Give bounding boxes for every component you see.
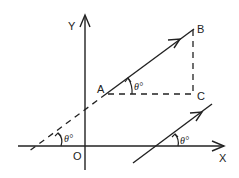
x-axis [18,141,224,151]
angle-label-parallel: θ° [180,135,189,146]
point-c-label: C [197,90,205,102]
angle-arc-extension-head [55,133,61,136]
point-a-label: A [97,83,105,95]
origin-label: O [73,150,82,162]
vector-diagram: Y X O A B C θ° θ° θ° [0,0,239,178]
angle-label-extension: θ° [64,133,73,144]
x-axis-label: X [219,152,227,164]
angle-arc-parallel-head [172,134,178,137]
point-b-label: B [197,23,204,35]
y-axis-label: Y [68,20,76,32]
y-axis [80,15,90,170]
angle-label-a: θ° [134,81,143,92]
